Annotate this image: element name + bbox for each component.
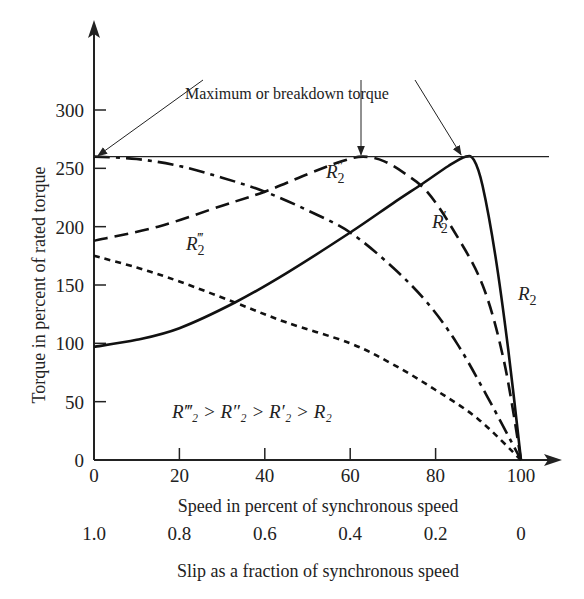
curve-label-dashed: R′2	[431, 209, 448, 236]
y-tick-label: 0	[75, 450, 85, 471]
y-tick-label: 300	[56, 100, 85, 121]
curve-label-dotted: R‴2	[185, 231, 204, 258]
y-axis-title: Torque in percent of rated torque	[29, 166, 49, 403]
x2-tick-label: 1.0	[82, 523, 106, 544]
x2-tick-label: 0.2	[424, 523, 448, 544]
x2-tick-label: 0.8	[168, 523, 192, 544]
series-line-dotted	[94, 256, 521, 460]
x-tick-label: 60	[341, 465, 360, 486]
x-tick-label: 0	[89, 465, 99, 486]
y-tick-label: 150	[56, 275, 85, 296]
x2-axis-title: Slip as a fraction of synchronous speed	[177, 561, 459, 581]
y-tick-label: 100	[56, 333, 85, 354]
breakdown-torque-label: Maximum or breakdown torque	[185, 85, 389, 103]
x-axis-title: Speed in percent of synchronous speed	[178, 496, 458, 516]
x2-tick-label: 0.4	[338, 523, 362, 544]
x-tick-label: 40	[255, 465, 274, 486]
y-tick-label: 50	[65, 392, 84, 413]
y-tick-label: 250	[56, 158, 85, 179]
curve-label-dashdot: R″2	[325, 159, 344, 186]
x2-tick-label: 0.6	[253, 523, 277, 544]
resistance-inequality-annotation: R‴₂ > R″₂ > R′₂ > R₂	[171, 401, 332, 422]
breakdown-arrow-right	[415, 80, 461, 155]
torque-speed-chart: 05010015020025030001.0200.8400.6600.4800…	[0, 0, 584, 599]
x2-tick-label: 0	[516, 523, 526, 544]
x-tick-label: 20	[170, 465, 189, 486]
x-tick-label: 80	[426, 465, 445, 486]
curve-label-solid: R2	[517, 283, 537, 308]
y-tick-label: 200	[56, 217, 85, 238]
x-tick-label: 100	[507, 465, 536, 486]
